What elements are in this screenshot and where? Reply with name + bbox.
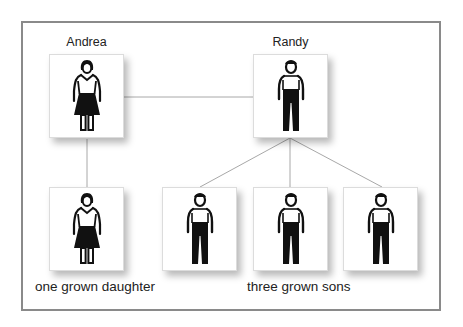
parent-name-randy: Randy xyxy=(253,35,328,49)
woman-icon xyxy=(72,59,102,133)
daughters-label: one grown daughter xyxy=(35,279,155,294)
person-card-andrea xyxy=(49,54,124,138)
person-card-randy xyxy=(253,54,328,138)
person-card-son-3 xyxy=(343,187,418,271)
man-icon xyxy=(276,192,306,266)
person-card-son-2 xyxy=(253,187,328,271)
person-card-daughter xyxy=(49,187,124,271)
sons-label: three grown sons xyxy=(247,279,351,294)
parent-name-andrea: Andrea xyxy=(49,35,124,49)
man-icon xyxy=(366,192,396,266)
man-icon xyxy=(276,59,306,133)
family-tree-diagram: Andrea Randy xyxy=(0,0,463,327)
man-icon xyxy=(185,192,215,266)
person-card-son-1 xyxy=(162,187,237,271)
woman-icon xyxy=(72,192,102,266)
